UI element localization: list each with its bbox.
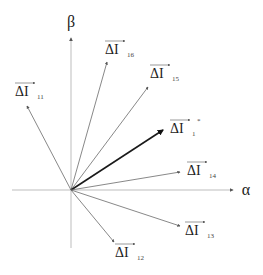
vector-label-main: ΔI [187,163,201,178]
vector-label-11: ΔI11 [15,83,44,101]
vector-label-subscript: 1 [192,130,196,138]
vector-label-main: ΔI [150,66,164,81]
vector-delta-i-15 [71,87,148,190]
vector-label-main: ΔI [15,84,29,99]
vector-label-16: ΔI16 [105,41,135,59]
vector-label-main: ΔI [170,121,184,136]
vector-label-main: ΔI [185,223,199,238]
axes-group: αβ [12,13,251,248]
vector-label-subscript: 15 [172,75,180,83]
vector-diagram: αβ ΔI11ΔI16ΔI15ΔI1*ΔI14ΔI13ΔI12 [0,0,263,275]
vector-label-main: ΔI [115,245,129,260]
vector-delta-i-12 [71,190,114,242]
vector-label-14: ΔI14 [187,162,217,180]
alpha-axis-label: α [242,181,251,198]
vector-label-subscript: 13 [207,232,215,240]
vector-label-main: ΔI [105,42,119,57]
vector-label-subscript: 11 [37,93,44,101]
vector-label-13: ΔI13 [185,222,215,240]
vector-label-1: ΔI1* [170,117,201,138]
vector-label-subscript: 16 [127,51,135,59]
vector-delta-i-14 [71,172,180,190]
vector-label-15: ΔI15 [150,65,180,83]
beta-axis-label: β [67,13,75,31]
vector-label-subscript: 14 [209,172,217,180]
vector-label-superscript: * [197,117,201,125]
vector-delta-i-1 [71,130,163,190]
vector-delta-i-11 [27,106,71,190]
vector-delta-i-13 [71,190,180,226]
vector-label-12: ΔI12 [115,244,145,262]
vector-label-subscript: 12 [137,254,145,262]
vectors-group: ΔI11ΔI16ΔI15ΔI1*ΔI14ΔI13ΔI12 [15,41,217,262]
